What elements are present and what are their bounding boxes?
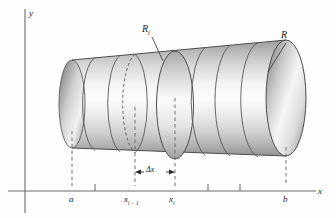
radius-label-R-i: Ri (142, 23, 150, 36)
radius-label-R: R (281, 29, 287, 40)
point-label-x-i: xi (169, 194, 175, 206)
figure-canvas: y x a xi − 1 xi b Δx Ri R (0, 0, 336, 218)
point-label-b-text: b (283, 194, 288, 204)
radius-label-R-text: R (281, 29, 287, 40)
right-end-cap (266, 40, 306, 156)
point-label-a-text: a (69, 194, 74, 204)
radius-label-R-i-sub: i (148, 29, 150, 36)
point-label-x-i-1-sub: i − 1 (128, 200, 139, 206)
point-label-x-i-1: xi − 1 (124, 194, 139, 206)
delta-x-annotation (135, 170, 175, 175)
point-label-b: b (283, 194, 288, 204)
solid-of-revolution (59, 40, 306, 159)
delta-x-left-arrowhead (135, 170, 141, 175)
axis-ticks (95, 184, 240, 191)
left-end-cap (59, 60, 85, 148)
delta-x-right-arrowhead (169, 170, 175, 175)
x-axis-label: x (318, 186, 322, 196)
delta-x-label: Δx (146, 165, 154, 174)
point-label-x-i-sub: i (173, 200, 175, 206)
point-label-a: a (69, 194, 74, 204)
y-axis-label: y (29, 8, 33, 18)
